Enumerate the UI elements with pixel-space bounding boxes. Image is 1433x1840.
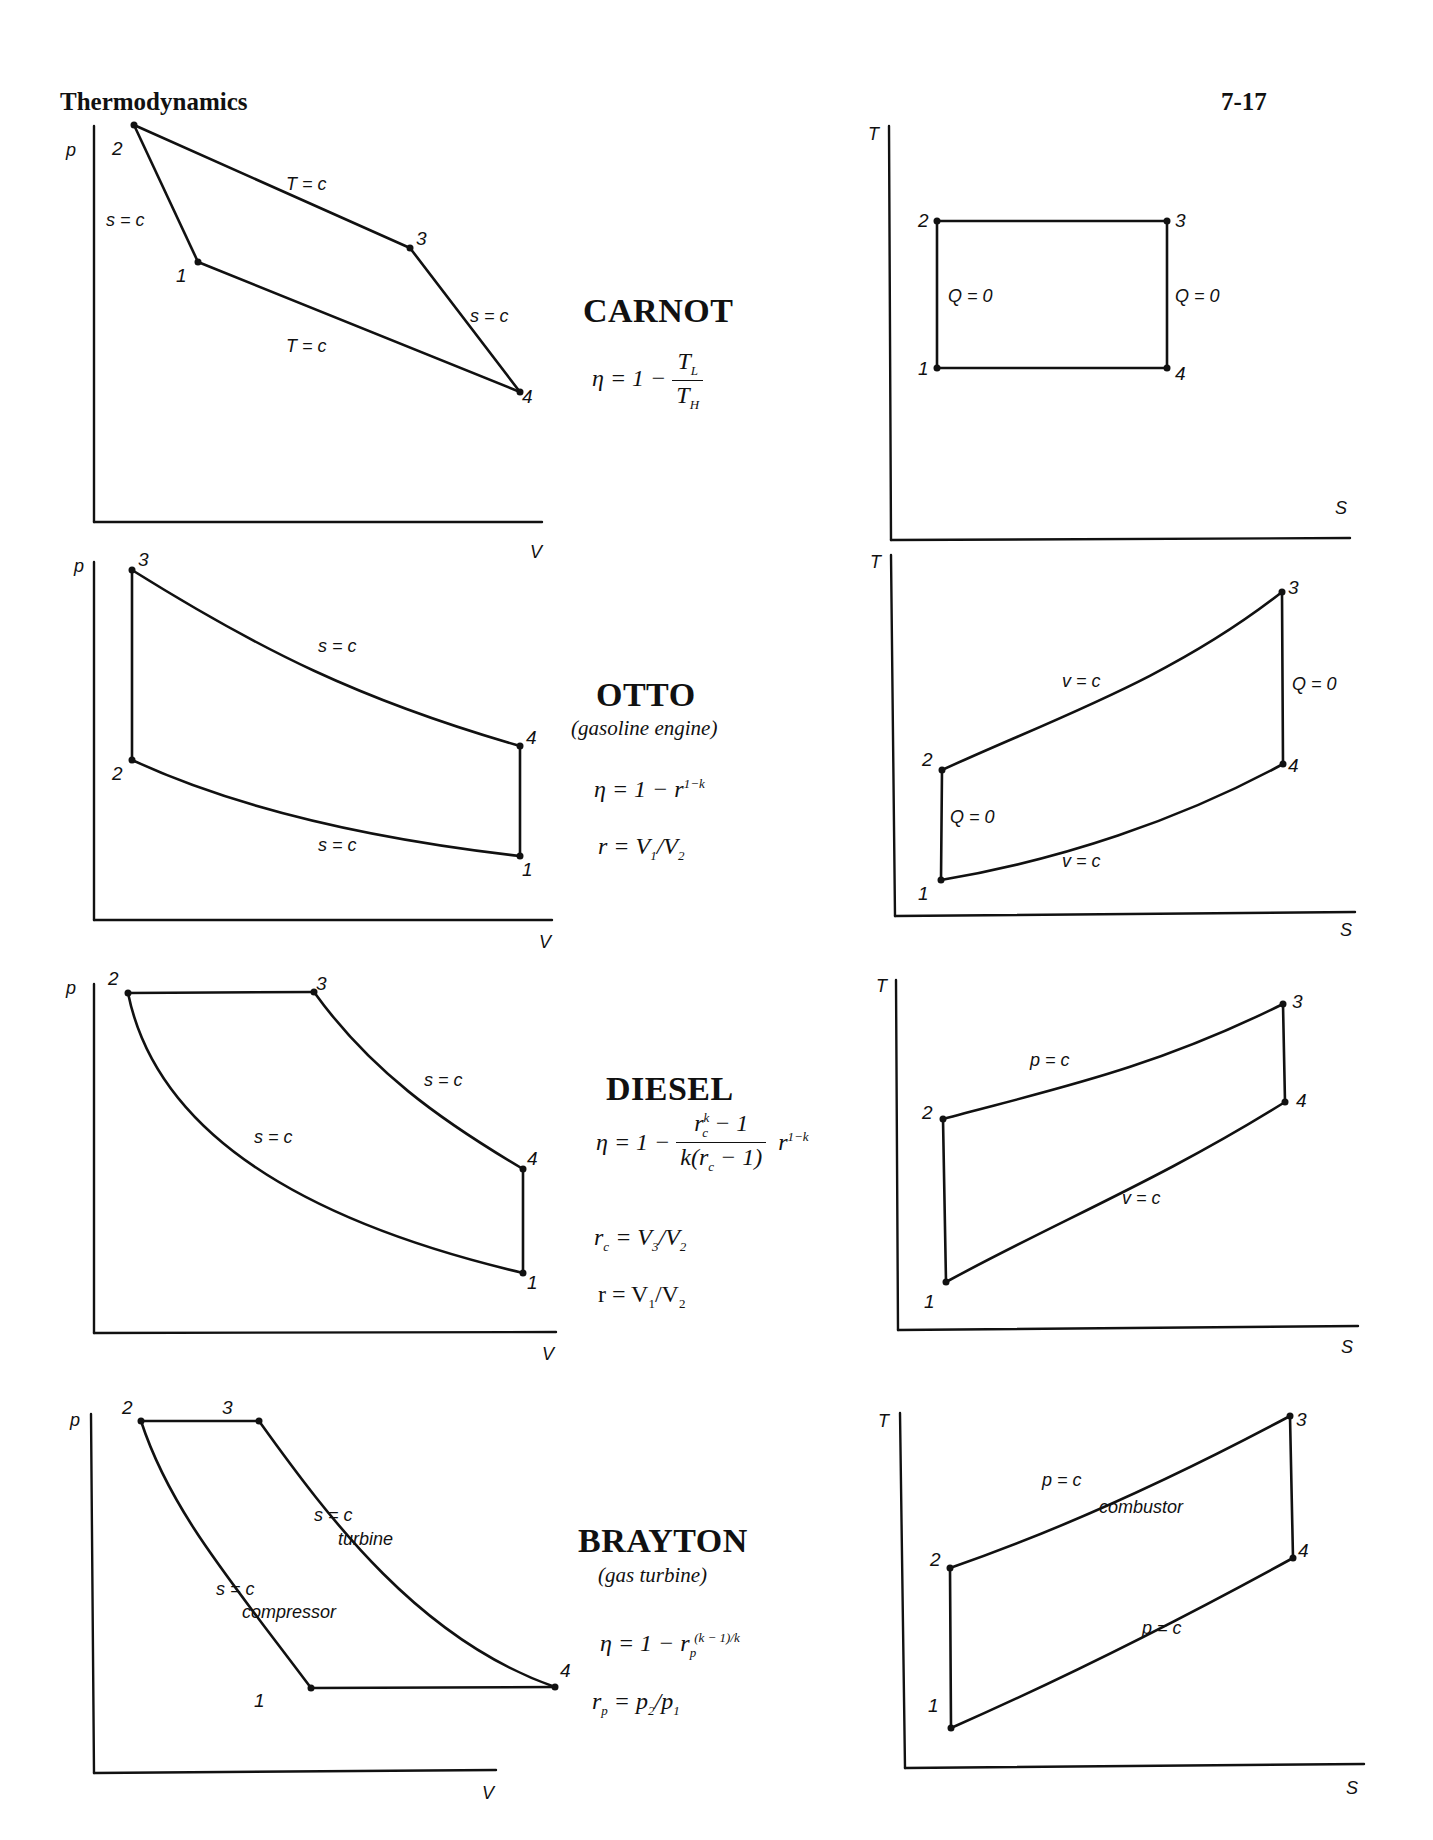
y-axis: [900, 1413, 905, 1768]
process-label-bottom: s = c: [318, 835, 357, 855]
point-label-4: 4: [522, 386, 533, 407]
equation-otto-ratio: r = V1/V2: [598, 833, 685, 864]
cycle-subtitle-brayton: (gas turbine): [598, 1563, 707, 1588]
point-label-3: 3: [416, 228, 427, 249]
point-label-4: 4: [560, 1660, 571, 1681]
point-label-1: 1: [522, 859, 533, 880]
process-1-2: [134, 125, 198, 262]
axis-label-v: V: [482, 1783, 496, 1803]
process-label-turbine-eq: s = c: [314, 1505, 353, 1525]
x-axis: [891, 538, 1350, 540]
process-label-top: p = c: [1029, 1050, 1070, 1070]
process-label-bottom: T = c: [286, 336, 327, 356]
axis-label-v: V: [542, 1344, 556, 1364]
process-2-3: [950, 1416, 1290, 1568]
point-label-4: 4: [527, 1148, 538, 1169]
process-label-right: s = c: [470, 306, 509, 326]
process-label-right: Q = 0: [1292, 674, 1337, 694]
axis-label-p: p: [65, 978, 76, 998]
axis-label-t: T: [868, 124, 881, 144]
process-label-bottom: v = c: [1062, 851, 1101, 871]
point-label-1: 1: [918, 358, 929, 379]
process-1-2: [941, 770, 942, 880]
process-3-4: [314, 992, 523, 1169]
point-label-3: 3: [316, 973, 327, 994]
point-label-1: 1: [918, 883, 929, 904]
process-label-lower: s = c: [254, 1127, 293, 1147]
process-label-left: Q = 0: [950, 807, 995, 827]
carnot-ts-diagram: [889, 126, 1350, 540]
axis-label-s: S: [1335, 498, 1347, 518]
process-2-3: [134, 125, 410, 248]
y-axis: [91, 1414, 94, 1773]
axis-label-s: S: [1341, 1337, 1353, 1357]
point-label-1: 1: [924, 1291, 935, 1312]
point-label-4: 4: [1298, 1540, 1309, 1561]
point-label-3: 3: [138, 549, 149, 570]
cycle-title-diesel: DIESEL: [606, 1070, 734, 1108]
process-label-turbine: turbine: [338, 1529, 393, 1549]
equation-otto-efficiency: η = 1 − r1−k: [594, 776, 705, 803]
process-2-3: [942, 592, 1282, 770]
point-label-3: 3: [1292, 991, 1303, 1012]
process-label-combustor: combustor: [1099, 1497, 1184, 1517]
equation-brayton-efficiency: η = 1 − rp(k − 1)/k: [600, 1630, 740, 1661]
x-axis: [898, 1326, 1358, 1330]
process-label-compressor: compressor: [242, 1602, 337, 1622]
fraction-numerator: rkc − 1: [676, 1110, 766, 1143]
point-label-2: 2: [921, 1102, 933, 1123]
cycle-subtitle-otto: (gasoline engine): [571, 716, 717, 741]
brayton-ts-diagram: [900, 1413, 1364, 1768]
point-label-4: 4: [1175, 363, 1186, 384]
process-3-4: [1283, 1004, 1285, 1102]
fraction-denominator: TH: [672, 381, 703, 413]
process-4-1: [946, 1102, 1285, 1282]
y-axis: [891, 555, 895, 916]
point-label-4: 4: [1296, 1090, 1307, 1111]
point-label-2: 2: [111, 763, 123, 784]
x-axis: [905, 1764, 1364, 1768]
cycle-title-otto: OTTO: [580, 676, 776, 714]
process-3-4: [1290, 1416, 1293, 1558]
point-label-2: 2: [121, 1397, 133, 1418]
process-label-left: s = c: [106, 210, 145, 230]
axis-label-p: p: [65, 140, 76, 160]
process-4-1: [311, 1687, 555, 1688]
cycle-title-carnot: CARNOT: [583, 292, 763, 330]
fraction-denominator: k(rc − 1): [676, 1143, 766, 1175]
point-label-2: 2: [107, 968, 119, 989]
process-2-3: [128, 992, 314, 993]
process-label-top: p = c: [1041, 1470, 1082, 1490]
axis-label-s: S: [1346, 1778, 1358, 1798]
axis-label-t: T: [876, 976, 889, 996]
process-1-2: [141, 1421, 311, 1688]
axis-label-s: S: [1340, 920, 1352, 940]
fraction: TL TH: [672, 348, 703, 413]
otto-ts-diagram: [891, 555, 1355, 916]
equation-brayton-pressure-ratio: rp = p2/p1: [592, 1688, 680, 1719]
equation-diesel-efficiency: η = 1 − rkc − 1 k(rc − 1) r1−k: [596, 1110, 809, 1175]
point-label-3: 3: [1296, 1409, 1307, 1430]
diesel-pv-diagram: [94, 984, 556, 1333]
process-label-bottom: p = c: [1141, 1618, 1182, 1638]
point-label-1: 1: [176, 265, 187, 286]
cycle-diagrams: p V 2 3 1 4 T = c T = c s = c s = c T S …: [0, 0, 1433, 1840]
process-4-1: [951, 1558, 1293, 1728]
point-label-2: 2: [929, 1549, 941, 1570]
eta-lhs: η = 1 −: [592, 365, 666, 391]
process-1-2: [943, 1119, 946, 1282]
process-label-upper: s = c: [424, 1070, 463, 1090]
process-3-4: [1282, 592, 1283, 764]
point-label-2: 2: [917, 210, 929, 231]
axis-label-v: V: [539, 932, 553, 952]
process-1-2: [950, 1568, 951, 1728]
axis-label-p: p: [69, 1410, 80, 1430]
equation-diesel-cutoff-ratio: rc = V3/V2: [594, 1224, 686, 1255]
process-3-4: [259, 1421, 555, 1687]
axis-label-t: T: [870, 552, 883, 572]
x-axis: [895, 912, 1355, 916]
y-axis: [896, 980, 898, 1330]
point-label-4: 4: [1288, 755, 1299, 776]
process-2-3: [943, 1004, 1283, 1119]
process-label-top: s = c: [318, 636, 357, 656]
